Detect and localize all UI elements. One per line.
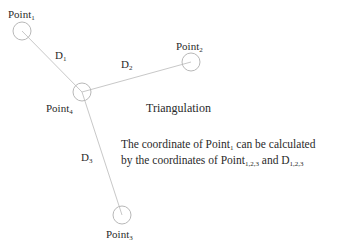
label-point3: Point3 xyxy=(106,228,133,240)
label-d2-text: D xyxy=(121,58,129,70)
desc-line2-sub2: 1,2,3 xyxy=(290,160,304,168)
label-point2-sub: 2 xyxy=(199,46,203,54)
diagram-description: The coordinate of Point1 can be calculat… xyxy=(121,136,315,168)
desc-line2-a: by the coordinates of Point xyxy=(121,154,245,166)
label-point3-sub: 3 xyxy=(129,234,133,242)
label-point4-text: Point xyxy=(46,102,69,114)
desc-line1-a: The coordinate of Point xyxy=(121,138,230,150)
label-point3-text: Point xyxy=(106,228,129,240)
label-point4-sub: 4 xyxy=(69,108,73,116)
description-line-2: by the coordinates of Point1,2,3 and D1,… xyxy=(121,152,315,168)
desc-line2-sub: 1,2,3 xyxy=(245,160,259,168)
description-line-1: The coordinate of Point1 can be calculat… xyxy=(121,136,315,152)
edge-d1 xyxy=(22,31,82,92)
triangulation-diagram xyxy=(0,0,344,252)
cropped-caption xyxy=(0,247,344,252)
desc-line2-b: and D xyxy=(259,154,290,166)
label-d1: D1 xyxy=(55,49,66,61)
edge-d2 xyxy=(82,62,191,92)
label-point1: Point1 xyxy=(8,8,35,20)
label-d3: D3 xyxy=(81,151,92,163)
label-d3-sub: 3 xyxy=(89,157,93,165)
label-d2: D2 xyxy=(121,58,132,70)
diagram-title: Triangulation xyxy=(146,101,211,116)
label-point4: Point4 xyxy=(46,102,73,114)
label-d2-sub: 2 xyxy=(129,64,133,72)
desc-line1-b: can be calculated xyxy=(233,138,315,150)
label-point2-text: Point xyxy=(176,40,199,52)
label-point2: Point2 xyxy=(176,40,203,52)
label-d1-text: D xyxy=(55,49,63,61)
label-point1-sub: 1 xyxy=(31,14,35,22)
label-point1-text: Point xyxy=(8,8,31,20)
label-d3-text: D xyxy=(81,151,89,163)
label-d1-sub: 1 xyxy=(63,55,67,63)
